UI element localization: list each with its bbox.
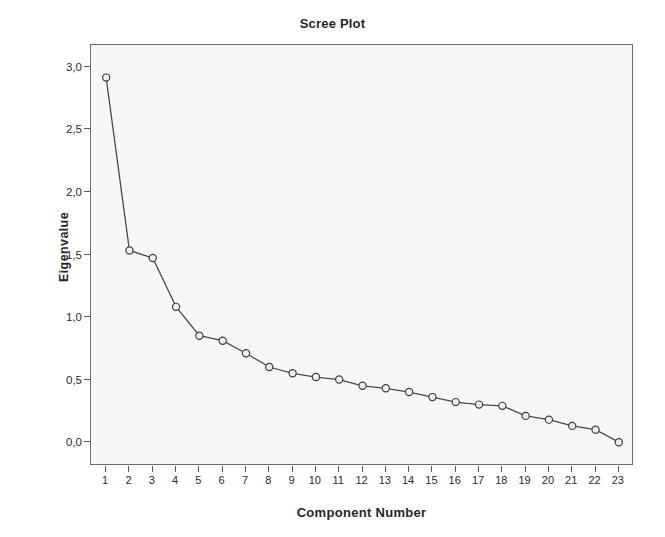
- data-point-marker: 9: 0.56: [289, 370, 296, 377]
- data-point-marker: 10: 0.53: [312, 373, 319, 380]
- y-axis-tick-label: 3,0: [66, 60, 82, 74]
- plot-area: 1: 2.922: 1.543: 1.484: 1.095: 0.866: 0.…: [90, 44, 633, 465]
- y-axis-tick: 2,5: [10, 122, 90, 136]
- x-axis-tick-mark: [338, 466, 339, 472]
- y-axis-tick-label: 0,5: [66, 373, 82, 387]
- x-axis-tick-mark: [501, 466, 502, 472]
- data-point-marker: 17: 0.31: [475, 401, 482, 408]
- x-axis-tick-mark: [478, 466, 479, 472]
- data-point-marker: 7: 0.72: [242, 350, 249, 357]
- x-axis-tick-mark: [525, 466, 526, 472]
- data-point-marker: 3: 1.48: [149, 254, 156, 261]
- data-point-marker: 15: 0.37: [429, 393, 436, 400]
- y-axis-tick-label: 1,5: [66, 248, 82, 262]
- x-axis-tick-mark: [128, 466, 129, 472]
- y-axis-tick: 1,5: [10, 248, 90, 262]
- data-point-marker: 4: 1.09: [172, 303, 179, 310]
- page-title: Scree Plot: [0, 16, 665, 31]
- y-axis-tick-label: 2,5: [66, 122, 82, 136]
- data-point-marker: 13: 0.44: [382, 385, 389, 392]
- y-axis-tick-label: 0,0: [66, 435, 82, 449]
- y-axis-tick: 2,0: [10, 185, 90, 199]
- x-axis-tick-mark: [175, 466, 176, 472]
- x-axis-tick-mark: [292, 466, 293, 472]
- x-axis-tick-mark: [431, 466, 432, 472]
- x-axis-tick-mark: [548, 466, 549, 472]
- x-axis-tick-mark: [268, 466, 269, 472]
- data-point-marker: 20: 0.19: [545, 416, 552, 423]
- data-point-marker: 6: 0.82: [219, 337, 226, 344]
- eigenvalue-series: 1: 2.922: 1.543: 1.484: 1.095: 0.866: 0.…: [91, 45, 634, 466]
- x-axis-tick-mark: [222, 466, 223, 472]
- x-axis-tick-mark: [245, 466, 246, 472]
- x-axis-tick-mark: [152, 466, 153, 472]
- y-axis-tick-label: 2,0: [66, 185, 82, 199]
- x-axis-label: Component Number: [90, 505, 633, 520]
- y-axis-tick: 0,0: [10, 435, 90, 449]
- x-axis-tick-mark: [315, 466, 316, 472]
- x-axis-tick-mark: [618, 466, 619, 472]
- x-axis-tick-mark: [571, 466, 572, 472]
- data-point-marker: 23: 0.01: [615, 439, 622, 446]
- y-axis: Eigenvalue 3,02,52,01,51,00,50,0: [10, 44, 90, 465]
- data-point-marker: 12: 0.46: [359, 382, 366, 389]
- x-axis-tick-mark: [408, 466, 409, 472]
- x-axis: 1234567891011121314151617181920212223: [90, 466, 633, 496]
- data-point-marker: 5: 0.86: [196, 332, 203, 339]
- x-axis-tick-mark: [362, 466, 363, 472]
- data-point-marker: 21: 0.14: [569, 422, 576, 429]
- x-axis-tick-label: 23: [603, 474, 633, 486]
- x-axis-tick-mark: [385, 466, 386, 472]
- data-point-marker: 22: 0.11: [592, 426, 599, 433]
- data-point-marker: 14: 0.41: [406, 388, 413, 395]
- x-axis-tick-mark: [198, 466, 199, 472]
- data-point-marker: 11: 0.51: [336, 376, 343, 383]
- x-axis-tick-mark: [105, 466, 106, 472]
- data-point-marker: 1: 2.92: [103, 74, 110, 81]
- data-point-marker: 8: 0.61: [266, 363, 273, 370]
- y-axis-tick: 1,0: [10, 310, 90, 324]
- data-point-marker: 2: 1.54: [126, 247, 133, 254]
- x-axis-tick-mark: [455, 466, 456, 472]
- x-axis-tick-mark: [595, 466, 596, 472]
- data-point-marker: 18: 0.3: [499, 402, 506, 409]
- scree-plot-figure: Scree Plot Eigenvalue 3,02,52,01,51,00,5…: [0, 0, 665, 537]
- data-point-marker: 16: 0.33: [452, 399, 459, 406]
- y-axis-tick: 3,0: [10, 60, 90, 74]
- y-axis-tick-label: 1,0: [66, 310, 82, 324]
- y-axis-tick: 0,5: [10, 373, 90, 387]
- data-point-marker: 19: 0.22: [522, 412, 529, 419]
